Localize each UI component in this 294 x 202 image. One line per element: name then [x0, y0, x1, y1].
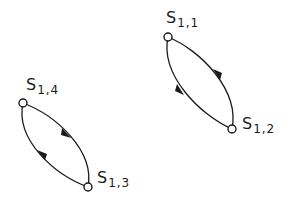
cycle-graph — [0, 0, 294, 202]
label-s11: S1,1 — [166, 10, 199, 27]
label-symbol: S — [242, 114, 252, 133]
label-subscript: 1,4 — [37, 83, 59, 97]
label-subscript: 1,1 — [177, 16, 199, 30]
label-symbol: S — [166, 8, 176, 27]
label-s13: S1,3 — [97, 170, 130, 187]
label-symbol: S — [97, 168, 107, 187]
arrow-icon — [213, 69, 222, 80]
node-s14 — [19, 99, 27, 107]
label-s14: S1,4 — [26, 77, 59, 94]
node-s12 — [228, 125, 236, 133]
arrow-icon — [37, 150, 47, 160]
node-s13 — [84, 183, 92, 191]
node-s11 — [164, 33, 172, 41]
cycle-s1-1-s1-2 — [164, 33, 236, 133]
edge-s12-to-s11 — [168, 37, 233, 129]
diagram-canvas: S1,1 S1,2 S1,3 S1,4 — [0, 0, 294, 202]
label-subscript: 1,2 — [253, 122, 275, 136]
label-s12: S1,2 — [242, 116, 275, 133]
label-symbol: S — [26, 75, 36, 94]
cycle-s1-4-s1-3 — [19, 99, 92, 191]
arrow-icon — [61, 128, 71, 138]
label-subscript: 1,3 — [108, 176, 130, 190]
